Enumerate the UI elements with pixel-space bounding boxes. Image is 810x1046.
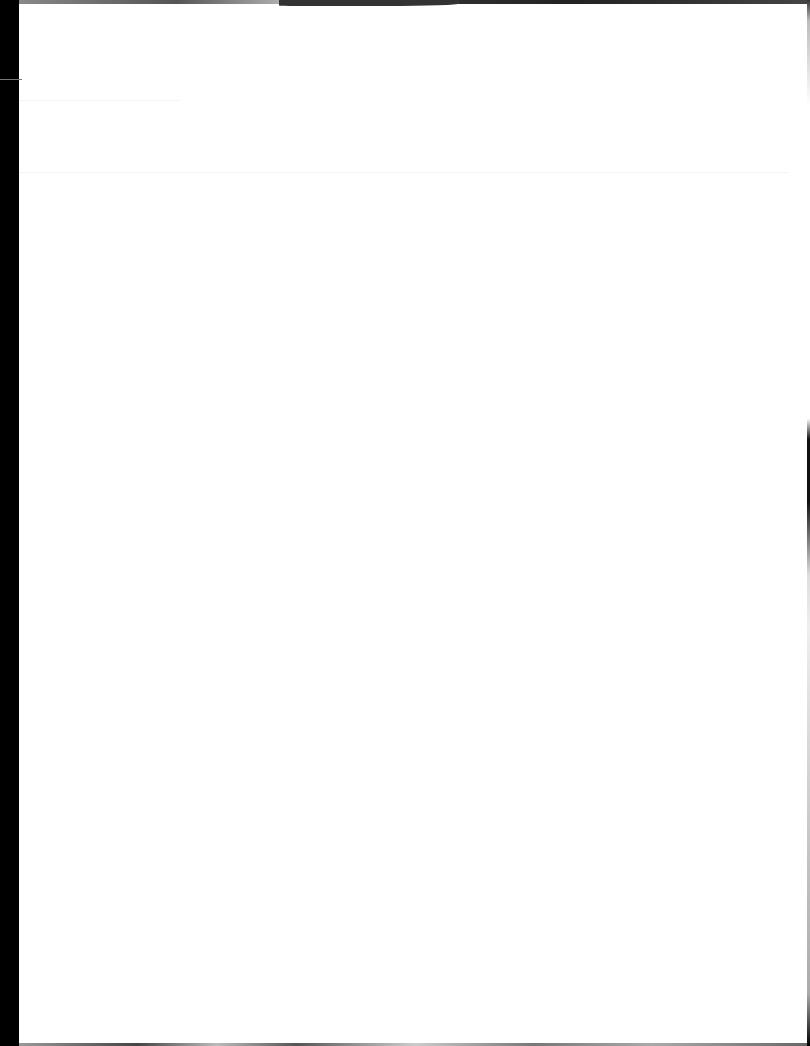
bleed-through-mark: [19, 100, 179, 101]
blank-page: [19, 4, 807, 1043]
bleed-through-mark: [19, 172, 789, 173]
scan-left-border: [0, 0, 19, 1046]
